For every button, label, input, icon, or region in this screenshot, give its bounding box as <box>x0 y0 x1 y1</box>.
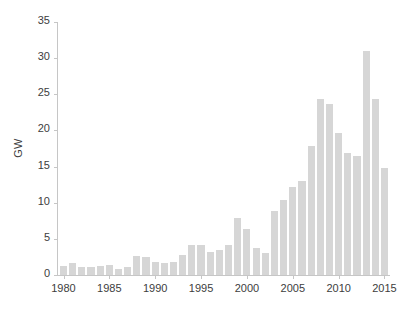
bar <box>271 211 278 275</box>
x-axis-line <box>57 275 390 276</box>
y-tick-label: 35 <box>38 14 50 26</box>
bar <box>335 133 342 275</box>
y-tick-label: 30 <box>38 50 50 62</box>
x-axis-tick: 1990 <box>155 275 156 279</box>
y-tick-label: 25 <box>38 86 50 98</box>
x-tick-label: 2015 <box>366 282 399 294</box>
bar <box>133 256 140 275</box>
bar <box>60 266 67 275</box>
x-axis-tick: 1985 <box>109 275 110 279</box>
x-tick-label: 1995 <box>183 282 219 294</box>
x-axis-tick: 2015 <box>384 275 385 279</box>
bar <box>106 265 113 275</box>
y-axis-tick: 25 <box>0 94 58 95</box>
bar <box>161 263 168 275</box>
bar <box>372 99 379 275</box>
x-tick-label: 1980 <box>46 282 82 294</box>
x-tick-label: 2000 <box>229 282 265 294</box>
y-tick-label: 10 <box>38 195 50 207</box>
bar <box>124 267 131 275</box>
x-axis-tick: 2005 <box>293 275 294 279</box>
y-tick-label: 0 <box>44 267 50 279</box>
y-tick-label: 15 <box>38 159 50 171</box>
bar <box>298 181 305 275</box>
x-axis-tick: 2010 <box>339 275 340 279</box>
bar <box>243 229 250 275</box>
x-axis-tick: 2000 <box>247 275 248 279</box>
bar <box>216 250 223 275</box>
bar <box>326 104 333 275</box>
bar <box>381 168 388 275</box>
bar <box>363 51 370 275</box>
bar-chart: GW 05101520253035 1980198519901995200020… <box>0 0 399 310</box>
x-tick-label: 1985 <box>91 282 127 294</box>
x-tick-mark <box>293 275 294 279</box>
bar <box>289 187 296 275</box>
bar <box>344 153 351 275</box>
y-axis-tick: 10 <box>0 203 58 204</box>
bar <box>308 146 315 275</box>
y-tick-label: 5 <box>44 231 50 243</box>
x-tick-label: 2005 <box>275 282 311 294</box>
x-tick-mark <box>201 275 202 279</box>
x-tick-mark <box>155 275 156 279</box>
x-tick-mark <box>339 275 340 279</box>
bar <box>97 266 104 275</box>
x-axis-tick: 1995 <box>201 275 202 279</box>
bar <box>188 245 195 275</box>
x-tick-mark <box>384 275 385 279</box>
x-tick-label: 1990 <box>137 282 173 294</box>
y-axis-tick: 5 <box>0 239 58 240</box>
y-tick-label: 20 <box>38 122 50 134</box>
bar <box>225 245 232 275</box>
x-tick-mark <box>64 275 65 279</box>
y-axis-tick: 15 <box>0 167 58 168</box>
bar <box>353 156 360 275</box>
bars-container <box>58 22 390 275</box>
x-tick-mark <box>109 275 110 279</box>
bar <box>234 218 241 275</box>
bar <box>115 269 122 276</box>
x-tick-mark <box>247 275 248 279</box>
bar <box>207 252 214 275</box>
y-axis-tick: 0 <box>0 275 58 276</box>
x-axis-tick: 1980 <box>64 275 65 279</box>
bar <box>179 255 186 275</box>
bar <box>253 248 260 275</box>
bar <box>69 263 76 275</box>
y-axis-label: GW <box>0 138 38 158</box>
bar <box>87 267 94 275</box>
bar <box>262 253 269 275</box>
bar <box>317 99 324 275</box>
bar <box>197 245 204 275</box>
y-tick-mark <box>54 275 58 276</box>
y-axis-tick: 30 <box>0 58 58 59</box>
bar <box>280 200 287 275</box>
x-tick-label: 2010 <box>321 282 357 294</box>
bar <box>142 257 149 275</box>
y-axis-tick: 20 <box>0 130 58 131</box>
bar <box>78 267 85 275</box>
y-axis-tick: 35 <box>0 22 58 23</box>
bar <box>152 262 159 275</box>
bar <box>170 262 177 275</box>
